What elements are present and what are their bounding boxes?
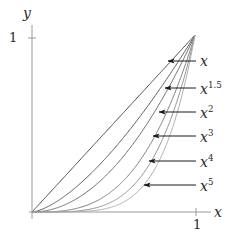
- curve-label-base: x: [200, 178, 208, 194]
- curve-label-exponent: 5: [208, 177, 214, 187]
- curve-label-3: x3: [200, 129, 213, 144]
- curve-label-2: x2: [200, 105, 213, 120]
- curve-label-base: x: [200, 129, 208, 145]
- x-axis-label: x: [214, 205, 222, 219]
- curve-label-4: x4: [200, 154, 213, 169]
- curve-label-exponent: 4: [208, 153, 214, 163]
- curve-label-0: x: [200, 54, 208, 68]
- curve-label-1: x1.5: [200, 81, 222, 96]
- y-axis-tick-label: 1: [9, 31, 17, 44]
- curve-label-base: x: [200, 105, 208, 121]
- curve-label-base: x: [200, 81, 208, 97]
- x-axis-tick-label: 1: [193, 218, 201, 231]
- curve-label-5: x5: [200, 178, 213, 193]
- plot-figure: 1 1 y x xx1.5x2x3x4x5: [0, 0, 228, 239]
- curve-label-exponent: 3: [208, 128, 214, 138]
- curve-label-base: x: [200, 154, 208, 170]
- curve-label-base: x: [200, 53, 208, 69]
- curve-label-exponent: 1.5: [208, 80, 222, 90]
- label-arrows: [144, 61, 196, 185]
- curve-label-exponent: 2: [208, 104, 214, 114]
- power-functions-plot: [0, 0, 228, 239]
- y-axis-label: y: [23, 6, 31, 20]
